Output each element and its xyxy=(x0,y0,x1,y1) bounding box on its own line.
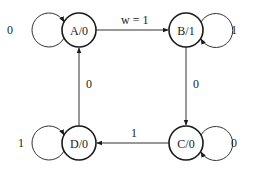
state-c-label: C/0 xyxy=(177,137,194,151)
self-loop-c: 0 xyxy=(201,127,237,161)
edge-a-to-b-label: w = 1 xyxy=(121,13,148,27)
self-loop-d: 1 xyxy=(18,126,64,160)
edge-d-to-a: 0 xyxy=(79,48,92,126)
self-loop-a: 0 xyxy=(7,13,64,47)
state-c: C/0 xyxy=(169,126,203,160)
state-d-label: D/0 xyxy=(70,137,88,151)
state-diagram: 0 1 0 1 w = 1 0 1 0 A/0 B/1 C/0 xyxy=(0,0,270,175)
state-d: D/0 xyxy=(62,126,96,160)
self-loop-c-label: 0 xyxy=(231,136,237,150)
edge-b-to-c: 0 xyxy=(186,47,199,125)
state-b: B/1 xyxy=(169,13,203,47)
edge-c-to-d-label: 1 xyxy=(131,126,137,140)
self-loop-b: 1 xyxy=(201,14,237,48)
edge-c-to-d: 1 xyxy=(97,126,169,143)
state-a: A/0 xyxy=(62,13,96,47)
self-loop-a-label: 0 xyxy=(7,23,13,37)
edge-a-to-b: w = 1 xyxy=(96,13,168,30)
state-b-label: B/1 xyxy=(177,24,194,38)
edge-d-to-a-label: 0 xyxy=(86,77,92,91)
self-loop-b-label: 1 xyxy=(231,23,237,37)
self-loop-d-label: 1 xyxy=(18,136,24,150)
edge-b-to-c-label: 0 xyxy=(193,77,199,91)
state-a-label: A/0 xyxy=(70,24,88,38)
